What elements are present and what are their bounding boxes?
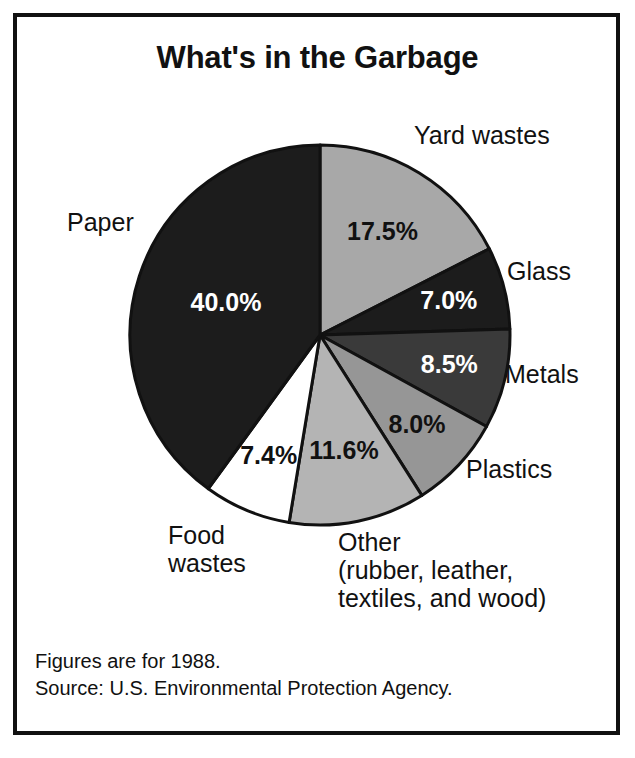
slice-label-other-line1: Other	[338, 528, 546, 556]
slice-label-paper: Paper	[67, 208, 134, 236]
slice-label-food-wastes-line2: wastes	[168, 549, 246, 577]
footnote-figures-year: Figures are for 1988.	[35, 648, 453, 675]
page-title: What's in the Garbage	[0, 40, 635, 76]
slice-label-food-wastes: Food wastes	[168, 521, 246, 577]
slice-label-metals: Metals	[505, 360, 579, 388]
slice-label-other-line3: textiles, and wood)	[338, 584, 546, 612]
footnote-source: Source: U.S. Environmental Protection Ag…	[35, 675, 453, 702]
chart-page: What's in the Garbage 17.5%7.0%8.5%8.0%1…	[0, 0, 635, 758]
footnotes: Figures are for 1988. Source: U.S. Envir…	[35, 648, 453, 702]
slice-label-yard-wastes: Yard wastes	[414, 121, 550, 149]
slice-label-plastics: Plastics	[466, 455, 552, 483]
slice-label-glass: Glass	[507, 257, 571, 285]
slice-label-other-line2: (rubber, leather,	[338, 556, 546, 584]
slice-label-other: Other (rubber, leather, textiles, and wo…	[338, 528, 546, 612]
slice-label-food-wastes-line1: Food	[168, 521, 246, 549]
